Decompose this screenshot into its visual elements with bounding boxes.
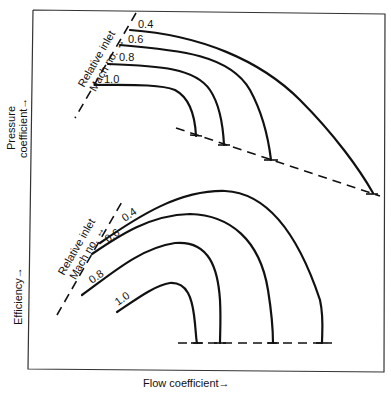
performance-diagram: 0.4 0.6 0.8 1.0 Relative inlet Mach no. …: [0, 0, 391, 394]
top-label-0.8: 0.8: [119, 51, 134, 63]
bottom-curve-0.8: [82, 243, 220, 343]
bottom-label-0.6-wrap: 0.6: [102, 226, 121, 245]
top-curve-1.0: [95, 85, 196, 136]
top-choke-line: [176, 128, 380, 196]
top-label-0.4: 0.4: [138, 18, 153, 30]
bottom-y-axis-label-text: Efficiency→: [12, 267, 24, 325]
top-curve-0.8: [108, 64, 224, 145]
top-label-0.6: 0.6: [128, 33, 143, 45]
top-y-axis-label: Pressure coefficient→: [5, 98, 29, 158]
top-y-axis-label-line2: coefficient→: [17, 98, 29, 158]
bottom-label-0.8-wrap: 0.8: [86, 267, 105, 286]
bottom-y-axis-label: Efficiency→: [12, 267, 24, 325]
x-axis-label: Flow coefficient→: [143, 377, 230, 389]
bottom-curve-1.0: [117, 283, 197, 343]
top-curve-1.0-end-tick: [190, 135, 202, 136]
top-curve-0.4: [130, 30, 373, 193]
top-y-axis-label-line1: Pressure: [5, 106, 17, 150]
bottom-label-0.8: 0.8: [86, 267, 105, 286]
bottom-label-0.6: 0.6: [102, 226, 121, 245]
